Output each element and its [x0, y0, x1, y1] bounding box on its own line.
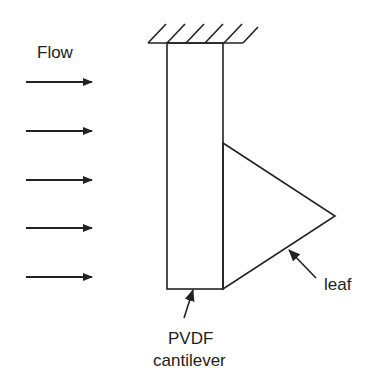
flow-arrows [26, 82, 92, 277]
cantilever-pointer-arrow-icon [184, 290, 193, 318]
flow-label: Flow [37, 44, 73, 61]
cantilever-label-line1: PVDF [168, 330, 213, 347]
leaf-label: leaf [324, 276, 351, 293]
leaf-pointer-arrow-icon [289, 250, 316, 278]
leaf [223, 143, 335, 289]
cantilever-label-line2: cantilever [153, 352, 226, 369]
pvdf-cantilever [167, 43, 223, 289]
fixed-support [148, 24, 258, 43]
